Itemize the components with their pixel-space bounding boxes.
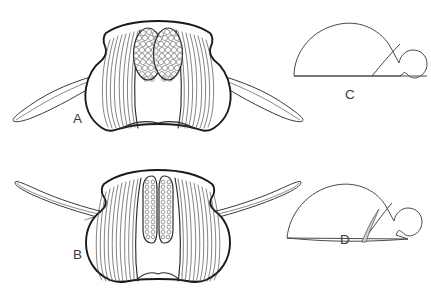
panel-label-a: A xyxy=(73,111,82,126)
panel-d: D xyxy=(287,184,422,247)
panel-b-left-appendage xyxy=(15,181,104,220)
panel-d-dome xyxy=(287,184,422,239)
illustration-canvas: A C xyxy=(0,0,431,293)
panel-label-d: D xyxy=(340,232,350,247)
panel-label-c: C xyxy=(345,87,355,102)
panel-a-right-eye xyxy=(154,28,183,81)
panel-b: B xyxy=(15,170,301,282)
panel-c: C xyxy=(294,23,427,102)
panel-b-right-eye xyxy=(159,176,173,243)
panel-b-right-appendage xyxy=(212,181,301,218)
panel-c-dome xyxy=(294,23,427,78)
panel-label-b: B xyxy=(73,247,82,262)
panel-b-left-eye xyxy=(143,176,157,243)
figure-plate: A C xyxy=(0,0,431,293)
panel-a: A xyxy=(13,21,303,131)
panel-b-head-capsule xyxy=(86,170,230,282)
